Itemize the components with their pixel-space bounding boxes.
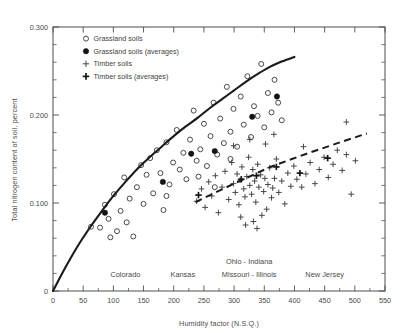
- x-tick-label: 500: [349, 296, 361, 305]
- region-annotation: Colorado: [110, 270, 140, 279]
- y-tick-label: 0.200: [30, 111, 48, 120]
- legend-item: Timber soils (averages): [83, 72, 169, 81]
- x-tick-label: 300: [228, 296, 240, 305]
- chart-background: [0, 0, 402, 333]
- x-tick-label: 0: [51, 296, 55, 305]
- region-annotation: Ohio - Indiana: [226, 257, 273, 266]
- x-axis-label: Humidity factor (N.S.Q.): [179, 319, 259, 328]
- region-annotation: Kansas: [170, 270, 195, 279]
- y-axis-label: Total nitrogen content of soil, percent: [10, 98, 19, 221]
- region-annotation: New Jersey: [305, 270, 344, 279]
- legend-item: Grassland soils (averages): [83, 47, 179, 56]
- x-tick-label: 50: [79, 296, 87, 305]
- legend-label: Grassland soils: [94, 34, 144, 43]
- y-tick-label: 0.100: [30, 199, 48, 208]
- x-tick-label: 400: [288, 296, 300, 305]
- region-annotation: Missouri - Illinois: [222, 270, 277, 279]
- legend-label: Grassland soils (averages): [94, 47, 180, 56]
- legend-label: Timber soils: [94, 59, 133, 68]
- legend-marker-filled-circle-icon: [83, 49, 88, 54]
- x-tick-label: 200: [168, 296, 180, 305]
- y-tick-label: 0.300: [30, 23, 48, 32]
- x-tick-label: 150: [137, 296, 149, 305]
- x-tick-label: 550: [379, 296, 391, 305]
- y-tick-label: 0: [44, 287, 48, 296]
- x-tick-label: 450: [319, 296, 331, 305]
- legend-label: Timber soils (averages): [94, 72, 169, 81]
- nitrogen-humidity-scatter-chart: 050100150200250300350400450500550 00.100…: [0, 0, 402, 333]
- x-tick-label: 350: [258, 296, 270, 305]
- x-tick-label: 250: [198, 296, 210, 305]
- x-tick-label: 100: [107, 296, 119, 305]
- chart-svg: 050100150200250300350400450500550 00.100…: [0, 0, 402, 333]
